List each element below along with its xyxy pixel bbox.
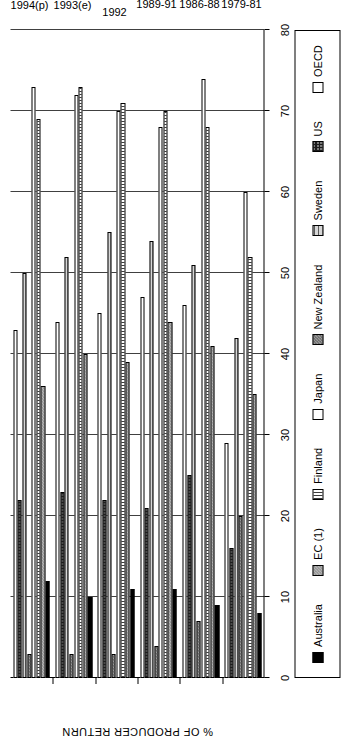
- bar-oecd-1989-91: [140, 297, 144, 678]
- legend-label: Australia: [311, 604, 323, 647]
- producer-return-bar-chart: % OF PRODUCER RETURN 01020304050607080 1…: [0, 0, 357, 738]
- value-axis-tick: [264, 272, 269, 273]
- bar-ec-1-1989-91: [167, 322, 171, 678]
- bar-australia-1992: [130, 589, 134, 678]
- bar-finland-1989-91: [163, 111, 167, 678]
- bar-us-1992: [102, 500, 106, 678]
- bar-ec-1-1993-e: [83, 354, 87, 678]
- value-axis-tick-label: 60: [278, 172, 290, 212]
- value-axis-tick: [264, 434, 269, 435]
- gridline: [10, 110, 264, 111]
- gridline: [10, 29, 264, 30]
- gridline: [10, 191, 264, 192]
- bar-sweden-1986-88: [191, 265, 195, 678]
- bar-oecd-1979-81: [224, 443, 228, 678]
- bar-sweden-1989-91: [149, 241, 153, 678]
- legend-item-oecd[interactable]: OECD: [311, 45, 323, 93]
- bar-finland-1994-p: [36, 119, 40, 678]
- value-axis-tick: [264, 677, 269, 678]
- category-group-tick: [137, 678, 138, 684]
- legend-swatch-icon: [312, 225, 323, 236]
- legend-label: Finland: [311, 448, 323, 484]
- bar-japan-1993-e: [74, 95, 78, 678]
- bar-australia-1986-88: [214, 605, 218, 678]
- legend-item-new-zealand[interactable]: New Zealand: [311, 265, 323, 346]
- legend-item-australia[interactable]: Australia: [311, 604, 323, 663]
- category-label-1989-91: 1989-91: [136, 0, 176, 10]
- bar-australia-1979-81: [257, 613, 261, 678]
- category-label-1993-e: 1993(e): [53, 0, 91, 11]
- value-axis-tick-label: 50: [278, 253, 290, 293]
- bar-sweden-1994-p: [22, 273, 26, 678]
- legend-label: Japan: [311, 374, 323, 404]
- bar-new-zealand-1992: [111, 654, 115, 678]
- bar-us-1979-81: [229, 548, 233, 678]
- legend-item-sweden[interactable]: Sweden: [311, 181, 323, 237]
- bar-new-zealand-1993-e: [69, 654, 73, 678]
- value-axis-line: [263, 30, 264, 678]
- category-group-tick: [179, 678, 180, 684]
- value-axis-tick-label: 20: [278, 496, 290, 536]
- bar-japan-1986-88: [201, 79, 205, 678]
- value-axis-tick-label: 70: [278, 91, 290, 131]
- bar-new-zealand-1994-p: [27, 654, 31, 678]
- legend-swatch-icon: [312, 409, 323, 420]
- plot-area: 01020304050607080 1979-811986-881989-911…: [10, 30, 264, 678]
- legend-label: US: [311, 121, 323, 136]
- bar-japan-1994-p: [31, 87, 35, 678]
- value-axis-tick: [264, 596, 269, 597]
- gridline: [10, 272, 264, 273]
- bar-oecd-1992: [97, 314, 101, 679]
- bar-us-1989-91: [144, 508, 148, 678]
- bar-new-zealand-1979-81: [238, 516, 242, 678]
- bar-australia-1993-e: [87, 597, 91, 678]
- legend-swatch-icon: [312, 334, 323, 345]
- value-axis-title-wrap: % OF PRODUCER RETURN: [0, 712, 274, 738]
- bar-finland-1992: [120, 103, 124, 678]
- legend-label: Sweden: [311, 181, 323, 221]
- bar-us-1994-p: [17, 500, 21, 678]
- bar-us-1993-e: [60, 492, 64, 678]
- value-axis-tick-label: 30: [278, 415, 290, 455]
- value-axis-tick: [264, 110, 269, 111]
- value-axis-tick-label: 0: [278, 658, 290, 698]
- legend-label: EC (1): [311, 528, 323, 560]
- value-axis-tick-label: 10: [278, 577, 290, 617]
- bar-finland-1986-88: [205, 127, 209, 678]
- bar-sweden-1993-e: [64, 257, 68, 678]
- bar-oecd-1994-p: [13, 330, 17, 678]
- bar-oecd-1993-e: [55, 322, 59, 678]
- bar-ec-1-1979-81: [252, 395, 256, 679]
- category-label-1994-p: 1994(p): [10, 0, 48, 11]
- legend-item-finland[interactable]: Finland: [311, 448, 323, 500]
- value-axis-tick: [264, 515, 269, 516]
- value-axis-tick: [264, 29, 269, 30]
- bar-oecd-1986-88: [182, 305, 186, 678]
- legend-swatch-icon: [312, 652, 323, 663]
- bar-finland-1979-81: [247, 257, 251, 678]
- bar-japan-1989-91: [158, 127, 162, 678]
- category-label-1992: 1992: [102, 6, 126, 18]
- legend-item-japan[interactable]: Japan: [311, 374, 323, 420]
- chart-legend: AustraliaEC (1)FinlandJapanNew ZealandSw…: [294, 30, 340, 678]
- value-axis-tick: [264, 191, 269, 192]
- category-label-1979-81: 1979-81: [221, 0, 261, 10]
- legend-item-us[interactable]: US: [311, 121, 323, 152]
- legend-swatch-icon: [312, 489, 323, 500]
- value-axis-tick-label: 80: [278, 10, 290, 50]
- legend-item-ec-1[interactable]: EC (1): [311, 528, 323, 576]
- bar-finland-1993-e: [78, 87, 82, 678]
- bar-japan-1992: [116, 111, 120, 678]
- bar-ec-1-1994-p: [40, 386, 44, 678]
- value-axis-tick-label: 40: [278, 334, 290, 374]
- legend-swatch-icon: [312, 141, 323, 152]
- legend-swatch-icon: [312, 565, 323, 576]
- bar-japan-1979-81: [243, 192, 247, 678]
- bar-australia-1989-91: [172, 589, 176, 678]
- category-group-tick: [222, 678, 223, 684]
- legend-label: OECD: [311, 45, 323, 77]
- value-axis-tick: [264, 353, 269, 354]
- gridline: [10, 434, 264, 435]
- bar-sweden-1992: [107, 233, 111, 679]
- bar-us-1986-88: [187, 476, 191, 679]
